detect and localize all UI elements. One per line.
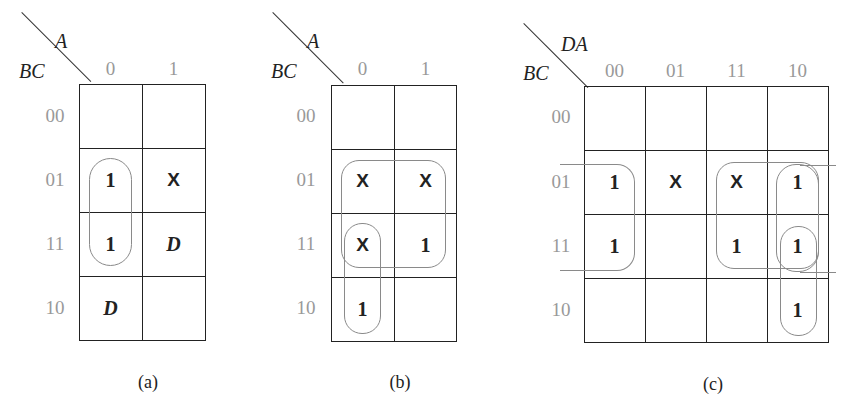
row-header: 10 [40, 297, 70, 319]
row-header: 11 [40, 233, 70, 255]
row-header: 01 [291, 169, 321, 191]
cell-r01-c1: X [142, 148, 205, 212]
grouping-loop [780, 226, 817, 336]
col-variable-label: DA [561, 33, 588, 56]
cell-r10-c0: D [79, 276, 142, 340]
col-header: 11 [706, 60, 767, 82]
wraparound-edge [574, 270, 594, 271]
row-header: 00 [291, 105, 321, 127]
row-variable-label: BC [523, 62, 549, 85]
wraparound-edge [574, 164, 594, 165]
cell-r01-c01: X [645, 150, 706, 214]
col-header: 00 [584, 60, 645, 82]
row-header: 00 [40, 105, 70, 127]
row-header: 11 [291, 233, 321, 255]
cell-r11-c1: D [142, 212, 205, 276]
wraparound-loop-left [560, 164, 635, 271]
row-header: 10 [546, 299, 576, 321]
col-header: 0 [331, 58, 394, 80]
row-header: 10 [291, 297, 321, 319]
col-header: 1 [142, 58, 205, 80]
col-header: 1 [394, 58, 457, 80]
caption: (c) [683, 374, 743, 395]
row-header: 00 [546, 106, 576, 128]
caption: (a) [118, 372, 178, 393]
col-header: 01 [645, 60, 706, 82]
row-variable-label: BC [271, 60, 297, 83]
col-header: 10 [767, 60, 828, 82]
col-variable-label: A [55, 30, 67, 53]
row-variable-label: BC [19, 60, 45, 83]
grouping-loop [89, 158, 132, 266]
grouping-loop [344, 223, 381, 334]
col-variable-label: A [307, 30, 319, 53]
row-header: 01 [40, 169, 70, 191]
caption: (b) [370, 372, 430, 393]
col-header: 0 [79, 58, 142, 80]
